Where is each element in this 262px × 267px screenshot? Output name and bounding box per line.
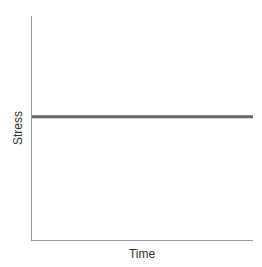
- x-axis-label: Time: [129, 247, 156, 261]
- y-axis-label: Stress: [11, 111, 25, 145]
- plot-area: [31, 16, 253, 241]
- stress-time-chart: Time Stress: [0, 0, 262, 267]
